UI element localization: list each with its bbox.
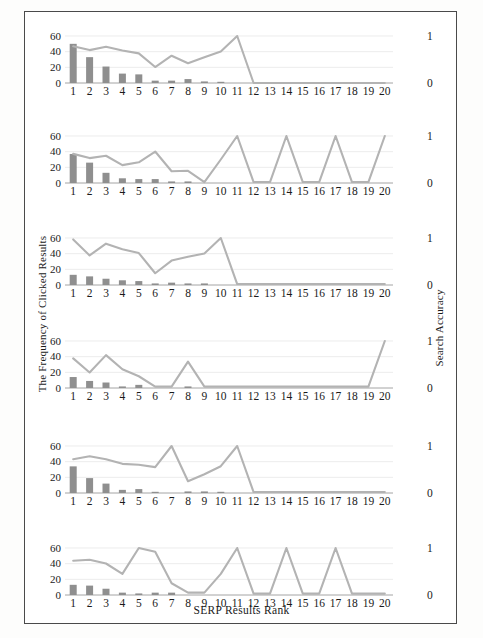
x-axis-tick: 17 (330, 287, 342, 299)
bar (185, 283, 192, 285)
x-axis-tick: 7 (169, 287, 175, 299)
accuracy-line (73, 446, 385, 492)
x-axis-tick: 9 (202, 287, 208, 299)
x-axis-tick: 19 (363, 495, 375, 507)
x-axis-tick: 19 (363, 390, 375, 402)
bar (201, 283, 208, 285)
x-axis-tick: 20 (379, 85, 391, 97)
x-axis-tick: 5 (136, 185, 142, 197)
x-axis-tick: 19 (363, 85, 375, 97)
x-axis-tick: 8 (185, 390, 191, 402)
accuracy-line (73, 548, 385, 594)
x-axis-tick: 17 (330, 185, 342, 197)
chart-panel: 0204060101234567891011121314151617181920 (25, 327, 483, 413)
bar (152, 283, 159, 285)
x-axis-tick: 11 (232, 85, 243, 97)
y-axis-right-tick: 0 (427, 487, 433, 499)
y-axis-left-tick: 20 (50, 61, 62, 73)
x-axis-tick: 18 (346, 185, 358, 197)
bar (70, 44, 77, 83)
x-axis-tick: 12 (248, 390, 260, 402)
y-axis-left-tick: 0 (56, 487, 62, 499)
bar (135, 385, 142, 388)
x-axis-tick: 11 (232, 287, 243, 299)
x-axis-tick: 9 (202, 390, 208, 402)
x-axis-tick: 8 (185, 85, 191, 97)
y-axis-left-tick: 20 (50, 161, 62, 173)
x-axis-tick: 1 (70, 495, 76, 507)
bar (152, 81, 159, 83)
y-axis-right-tick: 0 (427, 382, 433, 394)
y-axis-right-tick: 1 (427, 335, 433, 347)
y-axis-left-tick: 60 (50, 30, 62, 42)
y-axis-left-tick: 60 (50, 542, 62, 554)
bar (168, 181, 175, 183)
figure-frame: The Frequency of Clicked Results Search … (24, 11, 457, 624)
y-axis-left-tick: 0 (56, 279, 62, 291)
y-axis-left-tick: 60 (50, 440, 62, 452)
bar (70, 377, 77, 388)
x-axis-tick: 19 (363, 185, 375, 197)
x-axis-tick: 20 (379, 185, 391, 197)
x-axis-tick: 16 (313, 495, 325, 507)
y-axis-left-tick: 60 (50, 232, 62, 244)
x-axis-tick: 3 (103, 85, 109, 97)
x-axis-tick: 18 (346, 495, 358, 507)
bar (103, 279, 110, 285)
y-axis-left-tick: 40 (50, 557, 62, 569)
accuracy-line (73, 136, 385, 182)
bar (86, 381, 93, 388)
y-axis-left-tick: 0 (56, 77, 62, 89)
bar (103, 589, 110, 595)
bar (70, 154, 77, 183)
x-axis-tick: 10 (215, 185, 227, 197)
x-axis-tick: 4 (120, 390, 126, 402)
x-axis-tick: 14 (281, 185, 293, 197)
chart-panel: 0204060101234567891011121314151617181920 (25, 432, 483, 518)
x-axis-tick: 1 (70, 85, 76, 97)
y-axis-left-tick: 60 (50, 335, 62, 347)
x-axis-tick: 15 (297, 495, 309, 507)
panel-plot: 0204060101234567891011121314151617181920 (25, 327, 456, 413)
x-axis-tick: 2 (87, 495, 93, 507)
x-axis-tick: 12 (248, 185, 260, 197)
x-axis-tick: 4 (120, 495, 126, 507)
y-axis-left-tick: 20 (50, 263, 62, 275)
x-axis-tick: 9 (202, 85, 208, 97)
accuracy-line (73, 341, 385, 387)
panel-plot: 0204060101234567891011121314151617181920 (25, 122, 456, 208)
y-axis-right-tick: 1 (427, 30, 433, 42)
bar (185, 181, 192, 183)
x-axis-tick: 3 (103, 287, 109, 299)
panel-plot: 0204060101234567891011121314151617181920 (25, 432, 456, 518)
x-axis-title: SERP Results Rank (0, 604, 483, 616)
x-axis-tick: 13 (264, 287, 276, 299)
x-axis-tick: 9 (202, 185, 208, 197)
bar (185, 386, 192, 388)
y-axis-left-tick: 60 (50, 130, 62, 142)
x-axis-tick: 18 (346, 287, 358, 299)
y-axis-left-tick: 20 (50, 573, 62, 585)
x-axis-tick: 6 (152, 390, 158, 402)
accuracy-line (73, 238, 385, 284)
x-axis-tick: 1 (70, 185, 76, 197)
x-axis-tick: 12 (248, 495, 260, 507)
bar (119, 386, 126, 388)
bar (86, 57, 93, 83)
x-axis-tick: 6 (152, 495, 158, 507)
x-axis-tick: 3 (103, 495, 109, 507)
x-axis-tick: 15 (297, 85, 309, 97)
x-axis-tick: 18 (346, 85, 358, 97)
bar (201, 491, 208, 493)
x-axis-tick: 10 (215, 390, 227, 402)
x-axis-tick: 20 (379, 390, 391, 402)
y-axis-left-tick: 40 (50, 145, 62, 157)
x-axis-tick: 14 (281, 495, 293, 507)
bar (152, 492, 159, 493)
y-axis-left-tick: 20 (50, 366, 62, 378)
panel-plot: 0204060101234567891011121314151617181920 (25, 22, 456, 108)
y-axis-right-tick: 0 (427, 589, 433, 601)
y-axis-left-tick: 0 (56, 589, 62, 601)
x-axis-tick: 5 (136, 495, 142, 507)
bar (86, 478, 93, 493)
